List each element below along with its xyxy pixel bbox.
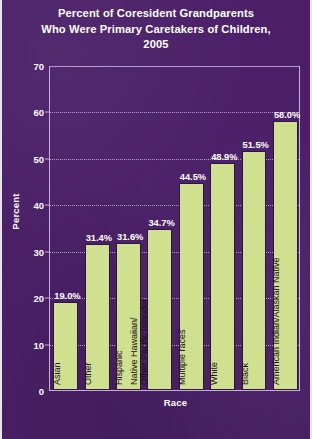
bar-category-line: Black (240, 362, 250, 385)
bar-value-label: 31.4% (86, 233, 112, 243)
bar-category-label: Hispanic (114, 362, 124, 385)
bar-category-line: Native Hawaiian/ (129, 362, 139, 385)
chart-title: Percent of Coresident Grandparents Who W… (12, 6, 300, 53)
bar-slot: Black51.5% (242, 66, 267, 390)
bars-layer: Asian19.0%Other31.4%Hispanic31.6%Native … (50, 66, 299, 390)
bar[interactable]: Other (85, 244, 110, 390)
y-tick-mark-20 (45, 298, 49, 299)
y-tick-label-20: 20 (14, 293, 44, 304)
bar-category-line: White (209, 362, 219, 385)
x-axis-title: Race (49, 397, 302, 408)
bar-slot: Asian19.0% (53, 66, 78, 390)
y-axis-title: Percent (10, 182, 21, 242)
y-tick-mark-60 (45, 112, 49, 113)
bar-value-label: 58.0% (274, 110, 300, 120)
bar[interactable]: Asian (53, 302, 78, 390)
y-tick-mark-10 (45, 344, 49, 345)
bar-value-label: 34.7% (148, 218, 174, 228)
bar-category-label: Multiple races (177, 362, 187, 385)
bar-slot: Native Hawaiian/Other Pacific Islander34… (147, 66, 172, 390)
bar-category-label: American Indian/Alaskan Native (271, 362, 281, 385)
bar-category-label: Native Hawaiian/Other Pacific Islander (129, 362, 149, 385)
chart-title-line-2: Who Were Primary Caretakers of Children, (12, 22, 300, 38)
bar-slot: Other31.4% (85, 66, 110, 390)
y-tick-label-60: 60 (14, 107, 44, 118)
plot-area: Asian19.0%Other31.4%Hispanic31.6%Native … (49, 66, 300, 391)
bar-category-label: Black (240, 362, 250, 385)
bar[interactable]: Native Hawaiian/Other Pacific Islander (147, 229, 172, 390)
chart-title-line-3: 2005 (12, 37, 300, 53)
bar[interactable]: Black (242, 151, 267, 390)
bar-value-label: 44.5% (180, 172, 206, 182)
bar[interactable]: Multiple races (179, 183, 204, 390)
y-tick-label-50: 50 (14, 153, 44, 164)
bar-category-line: American Indian/Alaskan Native (271, 362, 281, 385)
bar-category-label: White (209, 362, 219, 385)
bar-value-label: 19.0% (54, 291, 80, 301)
y-tick-label-70: 70 (14, 61, 44, 72)
chart-figure: Percent of Coresident Grandparents Who W… (0, 0, 312, 439)
bar-value-label: 51.5% (243, 140, 269, 150)
bar-slot: American Indian/Alaskan Native58.0% (273, 66, 298, 390)
y-tick-label-40: 40 (14, 200, 44, 211)
bar-value-label: 31.6% (117, 232, 143, 242)
bar-slot: White48.9% (210, 66, 235, 390)
bar-category-line: Other Pacific Islander (139, 362, 149, 385)
bar-category-label: Asian (52, 362, 62, 385)
y-tick-mark-30 (45, 251, 49, 252)
bar-category-line: Multiple races (177, 362, 187, 385)
y-tick-mark-50 (45, 158, 49, 159)
bar-value-label: 48.9% (211, 152, 237, 162)
bar-category-line: Hispanic (114, 362, 124, 385)
bar[interactable]: American Indian/Alaskan Native (273, 121, 298, 390)
y-tick-label-10: 10 (14, 339, 44, 350)
bar-category-line: Asian (52, 362, 62, 385)
y-tick-label-30: 30 (14, 246, 44, 257)
chart-title-line-1: Percent of Coresident Grandparents (12, 6, 300, 22)
bar[interactable]: White (210, 163, 235, 390)
y-tick-label-0: 0 (14, 386, 44, 397)
y-tick-mark-40 (45, 205, 49, 206)
bar-category-label: Other (83, 362, 93, 385)
bar-category-line: Other (83, 362, 93, 385)
bar-slot: Multiple races44.5% (179, 66, 204, 390)
